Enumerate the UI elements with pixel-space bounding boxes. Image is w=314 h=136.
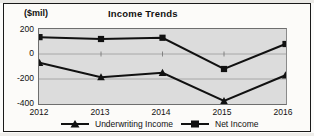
chart-legend: Underwriting Income Net Income [0, 118, 314, 132]
square-marker-icon [180, 119, 210, 129]
datapoint-net-income-2013 [98, 36, 104, 42]
x-tick-label-2014: 2014 [141, 107, 181, 117]
datapoint-net-income-2016 [282, 41, 286, 47]
plot-area [38, 28, 287, 105]
plot-svg [39, 29, 286, 104]
datapoint-net-income-2012 [39, 34, 43, 40]
legend-item-underwriting-income: Underwriting Income [60, 118, 173, 130]
y-tick-label-0: 0 [4, 48, 34, 58]
figure-bottom-edge [0, 133, 314, 136]
income-trends-chart-figure: ($mil) Income Trends 200 0 -200 -400 201… [0, 0, 314, 136]
legend-item-net-income: Net Income [180, 118, 258, 130]
datapoint-net-income-2014 [159, 35, 165, 41]
chart-title: Income Trends [108, 8, 178, 19]
datapoint-net-income-2015 [221, 66, 227, 72]
y-tick-label-200: 200 [4, 24, 34, 34]
legend-label-net-income: Net Income [215, 119, 258, 129]
y-axis-unit-label: ($mil) [24, 8, 48, 18]
legend-label-underwriting-income: Underwriting Income [95, 119, 173, 129]
x-tick-label-2016: 2016 [263, 107, 303, 117]
triangle-marker-icon [60, 119, 90, 129]
x-tick-label-2015: 2015 [202, 107, 242, 117]
datapoint-underwriting-income-2012 [39, 59, 43, 66]
series-line-underwriting-income [40, 63, 286, 101]
x-tick-label-2012: 2012 [19, 107, 59, 117]
datapoint-underwriting-income-2016 [282, 71, 286, 78]
x-tick-label-2013: 2013 [80, 107, 120, 117]
y-tick-label-neg200: -200 [4, 73, 34, 83]
